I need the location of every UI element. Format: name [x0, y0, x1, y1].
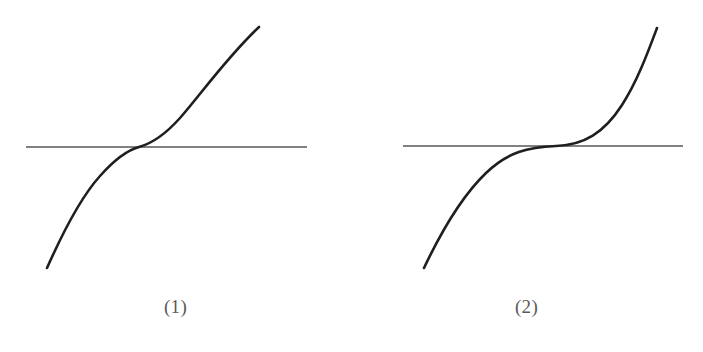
plot-area-2 — [351, 0, 702, 300]
figure-panel-1: (1) — [0, 0, 351, 352]
panel-caption-1: (1) — [0, 296, 351, 319]
panel-caption-2: (2) — [351, 296, 702, 319]
figure-panel-2: (2) — [351, 0, 702, 352]
quintic-increasing-curve — [424, 28, 657, 268]
plot-area-1 — [0, 0, 351, 300]
figure-container: (1) (2) — [0, 0, 703, 352]
